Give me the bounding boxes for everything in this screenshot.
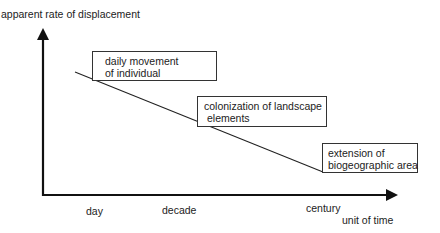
box-daily-line2: of individual — [105, 67, 216, 79]
x-axis-arrow-icon — [386, 189, 398, 201]
box-colonization-line1: colonization of landscape — [204, 100, 326, 112]
box-daily-line1: daily movement — [105, 55, 216, 67]
box-extension: extension of biogeographic area — [322, 143, 418, 173]
box-colonization-line2: elements — [204, 112, 326, 124]
x-axis-label: unit of time — [342, 214, 393, 226]
x-tick-decade: decade — [162, 204, 196, 216]
box-colonization: colonization of landscape elements — [197, 96, 327, 127]
box-extension-line1: extension of — [328, 147, 417, 159]
x-tick-century: century — [306, 202, 340, 214]
box-extension-line2: biogeographic area — [328, 159, 417, 171]
y-axis-arrow-icon — [37, 28, 49, 40]
box-daily-movement: daily movement of individual — [92, 51, 217, 81]
x-tick-day: day — [86, 205, 103, 217]
